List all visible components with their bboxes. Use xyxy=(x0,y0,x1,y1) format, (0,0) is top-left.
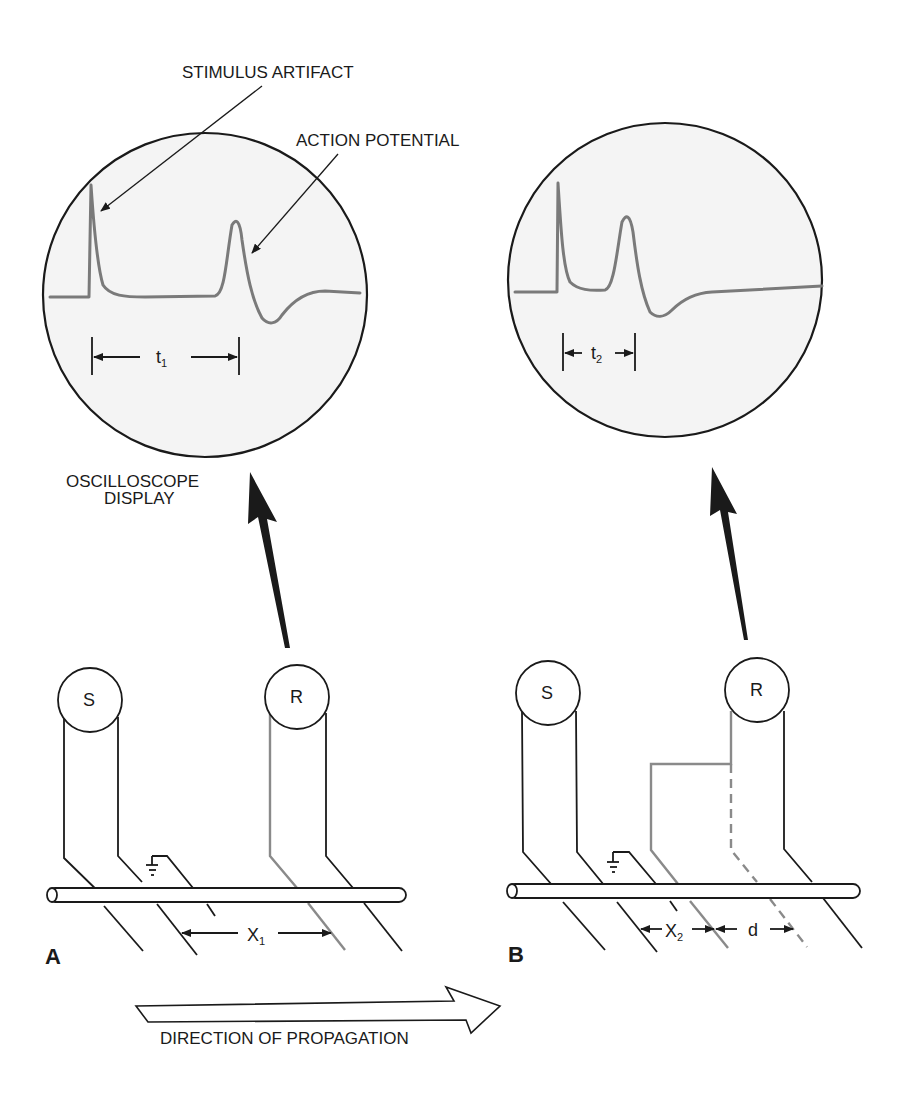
x2-label: X2 xyxy=(665,921,683,943)
nerve-fiber-a xyxy=(48,888,406,902)
panel-a-letter: A xyxy=(45,944,61,969)
signal-arrow-b-icon xyxy=(710,467,748,640)
nerve-setup-a: S R X1 A xyxy=(45,665,406,969)
x1-label: X1 xyxy=(247,925,265,947)
nerve-fiber-b xyxy=(508,884,860,898)
stimulus-artifact-label: STIMULUS ARTIFACT xyxy=(182,63,354,82)
oscilloscope-screen-b xyxy=(508,123,822,437)
oscilloscope-display-b: t2 xyxy=(508,123,822,437)
recording-electrode-b-label: R xyxy=(750,680,763,700)
propagation-arrow-icon xyxy=(136,987,500,1033)
oscilloscope-display-a: t1 xyxy=(43,133,367,457)
recording-electrode-a-label: R xyxy=(290,687,303,707)
stimulating-electrode-b-label: S xyxy=(541,683,553,703)
oscilloscope-display-label-line2: DISPLAY xyxy=(104,489,175,508)
stimulating-electrode-a-label: S xyxy=(83,690,95,710)
signal-arrow-a-icon xyxy=(248,472,290,648)
direction-of-propagation-label: DIRECTION OF PROPAGATION xyxy=(160,1029,409,1048)
panel-b-letter: B xyxy=(508,942,524,967)
nerve-setup-b: S R X2 d B xyxy=(507,658,862,967)
action-potential-label: ACTION POTENTIAL xyxy=(296,131,459,150)
d-label: d xyxy=(748,920,758,940)
